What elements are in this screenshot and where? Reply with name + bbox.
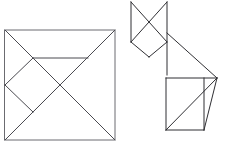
cat-head-diamond-right [149, 42, 167, 57]
tangram-figure [0, 0, 229, 147]
square-piece-edge-left-lower [5, 85, 33, 112]
tangram-square-group [5, 30, 115, 140]
square-piece-edge-right-lower [33, 85, 60, 112]
tangram-cat-group [131, 2, 217, 130]
square-diagonal-center-to-bottom-right [60, 85, 115, 140]
square-piece-edge-left-upper [5, 58, 33, 85]
cat-head-diamond-left [131, 42, 149, 57]
caption-text [96, 139, 122, 144]
cat-neck-diagonal [167, 33, 217, 78]
cat-body-right-slant [204, 78, 217, 130]
cat-body-inner-diagonal [166, 78, 217, 130]
